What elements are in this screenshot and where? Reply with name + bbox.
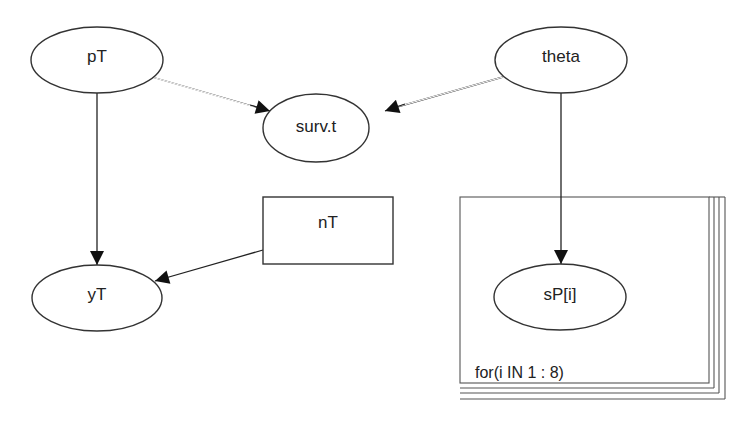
node-sP-i-label: sP[i] bbox=[543, 285, 576, 304]
node-nT[interactable]: nT bbox=[263, 197, 393, 264]
node-pT-label: pT bbox=[87, 47, 107, 66]
node-yT-label: yT bbox=[88, 285, 107, 304]
node-yT[interactable]: yT bbox=[32, 265, 162, 331]
graphical-model-diagram: for(i IN 1 : 8) pT theta surv.t bbox=[0, 0, 749, 421]
edge-theta-to-survt bbox=[385, 77, 503, 111]
node-surv-t[interactable]: surv.t bbox=[263, 94, 369, 162]
node-theta-label: theta bbox=[542, 47, 580, 66]
node-theta[interactable]: theta bbox=[495, 27, 627, 93]
node-sP-i[interactable]: sP[i] bbox=[494, 264, 626, 330]
plate-label: for(i IN 1 : 8) bbox=[475, 364, 564, 381]
node-nT-label: nT bbox=[318, 213, 338, 232]
node-pT[interactable]: pT bbox=[31, 27, 163, 93]
node-surv-t-label: surv.t bbox=[296, 117, 337, 136]
edge-nT-to-yT bbox=[155, 250, 263, 281]
edge-pT-to-survt bbox=[152, 77, 270, 111]
